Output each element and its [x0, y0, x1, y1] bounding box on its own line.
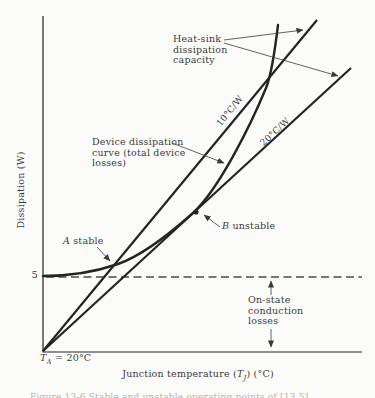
y-axis-label: Dissipation (W): [16, 151, 27, 228]
y-tick-5: 5: [26, 270, 38, 281]
heatsink-upper-arrow: [224, 30, 303, 40]
point-b-arrow: [204, 215, 220, 227]
ambient-temp-value: = 20°C: [52, 352, 92, 363]
onstate-losses-label: On-state conduction losses: [248, 295, 303, 327]
figure-stage: Dissipation (W) 5 Heat-sink dissipation …: [0, 0, 375, 398]
device-curve-label: Device dissipation curve (total device l…: [92, 137, 186, 169]
point-a-label: A stable: [63, 236, 104, 247]
heatsink-capacity-label: Heat-sink dissipation capacity: [173, 34, 228, 66]
heatsink-lower-arrow: [224, 43, 338, 76]
figure-caption-cropped: Figure 13-6 Stable and unstable operatin…: [30, 391, 375, 398]
x-axis-label-pre: Junction temperature (: [122, 368, 237, 379]
x-axis-label-post: ) (°C): [246, 368, 273, 379]
point-b-text: unstable: [229, 220, 275, 231]
axes-lines: [43, 16, 362, 352]
point-a-text: stable: [70, 235, 104, 246]
point-a-arrow: [97, 247, 110, 261]
point-a-symbol: A: [63, 235, 70, 246]
point-b-dot: [193, 209, 198, 214]
point-b-label: B unstable: [222, 221, 275, 232]
x-axis-label: Junction temperature (TJ) (°C): [43, 369, 353, 380]
origin-temperature-label: TA = 20°C: [40, 353, 91, 364]
